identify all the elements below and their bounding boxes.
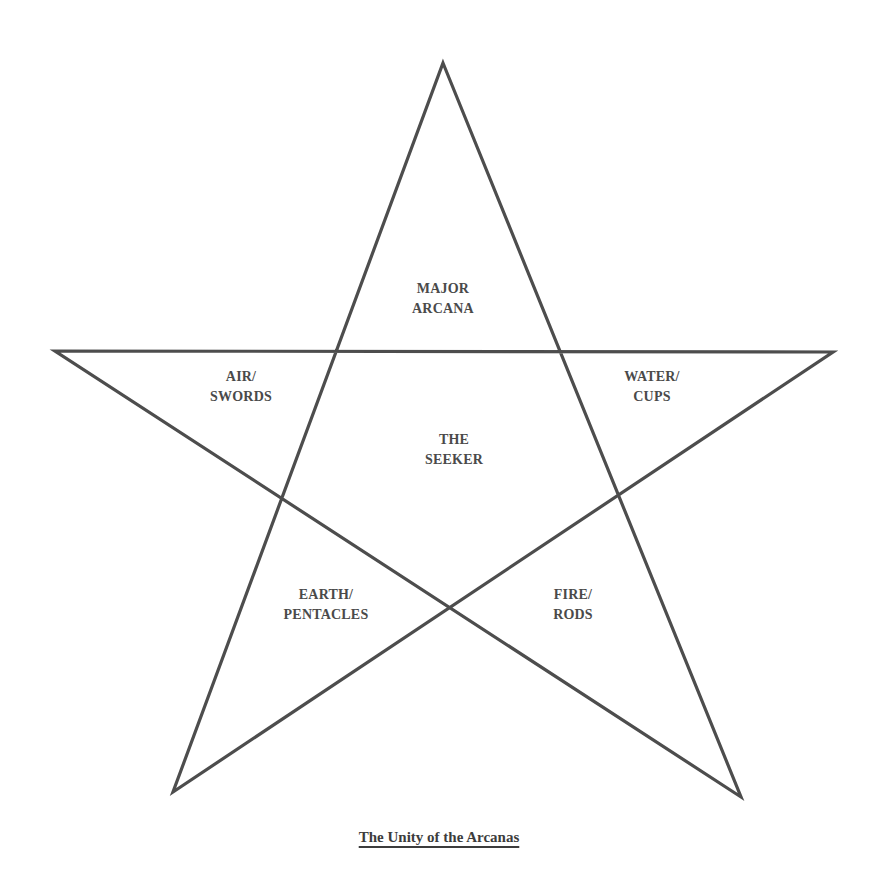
fire-rods-line2: RODS xyxy=(553,605,593,625)
region-air-swords: AIR/ SWORDS xyxy=(210,367,272,407)
fire-rods-line1: FIRE/ xyxy=(553,585,593,605)
the-seeker-line2: SEEKER xyxy=(425,450,483,470)
region-water-cups: WATER/ CUPS xyxy=(624,367,679,407)
region-major-arcana: MAJOR ARCANA xyxy=(412,279,474,319)
major-arcana-line1: MAJOR xyxy=(412,279,474,299)
earth-pentacles-line2: PENTACLES xyxy=(284,605,369,625)
region-earth-pentacles: EARTH/ PENTACLES xyxy=(284,585,369,625)
diagram-caption: The Unity of the Arcanas xyxy=(359,829,520,846)
earth-pentacles-line1: EARTH/ xyxy=(284,585,369,605)
water-cups-line2: CUPS xyxy=(624,387,679,407)
water-cups-line1: WATER/ xyxy=(624,367,679,387)
region-fire-rods: FIRE/ RODS xyxy=(553,585,593,625)
air-swords-line2: SWORDS xyxy=(210,387,272,407)
major-arcana-line2: ARCANA xyxy=(412,299,474,319)
region-the-seeker: THE SEEKER xyxy=(425,430,483,470)
the-seeker-line1: THE xyxy=(425,430,483,450)
air-swords-line1: AIR/ xyxy=(210,367,272,387)
